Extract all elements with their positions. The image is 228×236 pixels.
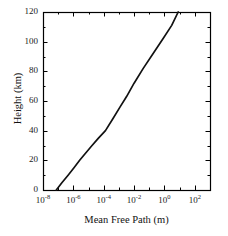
x-tick-label: 10-4 [89, 196, 119, 205]
axes-frame [44, 13, 211, 191]
tick-marks [43, 12, 211, 191]
y-tick-label: 100 [16, 37, 38, 46]
x-tick-label: 100 [149, 196, 179, 205]
axes-border [44, 13, 211, 191]
mean-free-path-chart: 020406080100120 10-810-610-410-2100102 M… [0, 0, 228, 236]
x-tick-label: 10-8 [28, 196, 58, 205]
x-axis-label: Mean Free Path (m) [43, 214, 210, 225]
y-tick-label: 20 [16, 155, 38, 164]
data-series-group [56, 12, 178, 190]
y-tick-label: 0 [16, 185, 38, 194]
y-axis-label: Height (km) [12, 49, 23, 149]
x-tick-label: 10-2 [119, 196, 149, 205]
y-tick-label: 120 [16, 7, 38, 16]
data-line [56, 12, 178, 190]
x-tick-label: 10-6 [58, 196, 88, 205]
x-tick-label: 102 [180, 196, 210, 205]
